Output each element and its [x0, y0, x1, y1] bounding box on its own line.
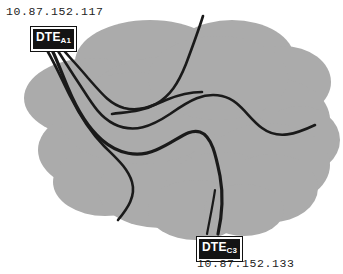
ip-address-bottom: 10.87.152.133 — [197, 258, 295, 270]
dte-a1-label: DTEA1 — [33, 29, 74, 49]
dte-a1-device-badge[interactable]: DTEA1 — [30, 26, 77, 52]
ip-address-top: 10.87.152.117 — [6, 6, 104, 18]
dte-a1-name: DTE — [36, 30, 61, 44]
dte-a1-subscript: A1 — [61, 36, 71, 45]
network-diagram-canvas: 10.87.152.117 DTEA1 DTEC3 10.87.152.133 — [0, 0, 343, 274]
dte-c3-subscript: C3 — [227, 246, 237, 255]
dte-c3-name: DTE — [202, 240, 227, 254]
dte-c3-label: DTEC3 — [199, 239, 240, 259]
cloud-shape — [24, 20, 340, 240]
